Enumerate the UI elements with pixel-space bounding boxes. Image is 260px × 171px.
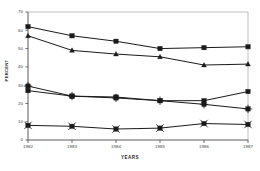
data-point-marker-square — [246, 45, 250, 49]
data-point-marker-square — [158, 46, 162, 50]
plot-frame — [28, 12, 248, 140]
x-axis-tick-label: 1983 — [59, 144, 85, 149]
y-axis-tick-label: 60 — [9, 28, 23, 33]
data-point-marker-triangle — [26, 33, 31, 37]
data-point-marker-square — [202, 45, 206, 49]
series-line — [28, 91, 248, 101]
x-axis-title: YEARS — [0, 155, 260, 160]
data-point-marker-square — [26, 24, 30, 28]
y-axis-tick-label: 40 — [9, 64, 23, 69]
y-axis-tick-label: 50 — [9, 46, 23, 51]
y-axis-tick-label: 0 — [9, 137, 23, 142]
y-axis-tick-label: 20 — [9, 101, 23, 106]
data-point-marker-square — [26, 88, 30, 92]
y-axis-title-text: PERCENT — [5, 59, 10, 81]
x-axis-tick-label: 1984 — [103, 144, 129, 149]
data-series-series-5 — [24, 120, 251, 133]
data-point-marker-square — [114, 39, 118, 43]
data-series-series-2 — [26, 33, 251, 67]
series-line — [28, 124, 248, 129]
data-series-series-4 — [26, 88, 250, 102]
series-line — [28, 27, 248, 49]
data-point-marker-square — [246, 89, 250, 93]
x-axis-tick-label: 1985 — [147, 144, 173, 149]
y-axis-tick-label: 30 — [9, 83, 23, 88]
x-axis-tick-label: 1986 — [191, 144, 217, 149]
y-axis-tick-label: 10 — [9, 119, 23, 124]
data-point-marker-square — [202, 98, 206, 102]
data-point-marker-square — [70, 34, 74, 38]
data-point-marker-square — [114, 95, 118, 99]
y-axis-tick-label: 70 — [9, 9, 23, 14]
data-point-marker-square — [70, 94, 74, 98]
data-point-marker-square — [158, 98, 162, 102]
chart-container: PERCENT YEARS 01020304050607019821983198… — [0, 0, 260, 171]
series-line — [28, 86, 248, 109]
x-axis-tick-label: 1982 — [15, 144, 41, 149]
series-line — [28, 36, 248, 65]
x-axis-tick-label: 1987 — [235, 144, 260, 149]
data-series-series-1 — [26, 24, 250, 50]
